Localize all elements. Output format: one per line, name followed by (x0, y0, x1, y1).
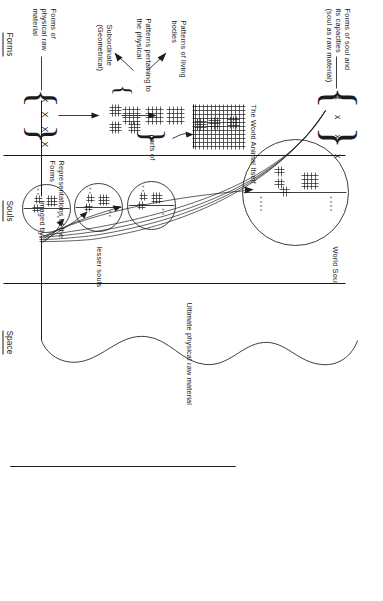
label-the-world-animal-itself: The World Animal Itself (248, 104, 257, 183)
grid-subordinate-b (108, 121, 121, 134)
grid-living-body-3 (165, 106, 184, 125)
world-soul-marks-top: x x x x (328, 196, 333, 211)
grid-lesser-soul-2c (83, 203, 92, 212)
grid-lesser-soul-2b (85, 194, 94, 203)
grid-living-body-2 (121, 106, 140, 125)
branch-head-living (157, 52, 166, 61)
label-subordinate-geometrical: Subordinate (Geometrical) (95, 24, 113, 71)
soul-raw-material-tokens: x x x x (332, 95, 341, 161)
label-patterns-of-living-bodies: Patterns of living bodies (169, 20, 187, 77)
label-representations-of-the-forms: Representations of the Forms (47, 160, 65, 238)
label-world-soul: World Soul (330, 246, 339, 284)
physical-raw-material-tokens: X X X X (39, 96, 48, 150)
section-heading-forms: Forms (2, 32, 13, 56)
grid-subordinate-a (108, 104, 121, 117)
grid-lesser-soul-1a (150, 192, 162, 204)
grid-world-soul-large (300, 172, 318, 190)
lesser-soul-2-marks-top: x x (107, 210, 112, 217)
grid-lesser-soul-2a (97, 194, 109, 206)
section-heading-souls: Souls (2, 200, 13, 221)
label-parts-of: parts of (147, 134, 156, 160)
label-imaged-by: imaged by (37, 200, 46, 235)
diagram-canvas: { } { } { } X X X X x x x x (0, 0, 383, 601)
lesser-soul-2-marks-bottom: x x (87, 187, 92, 194)
brace-subordinate: { (111, 84, 135, 96)
grid-world-soul-small-1 (273, 166, 284, 177)
arrow-head-1 (91, 112, 99, 118)
label-lesser-souls: lesser souls (94, 246, 103, 287)
label-patterns-pertaining-to-the-physical: Patterns pertaining to the physical (134, 18, 152, 92)
lesser-soul-1-marks-bottom: x x (140, 185, 145, 192)
label-forms-of-physical-raw-material: Forms of physical raw material (29, 8, 57, 50)
branch-head-subordinate (114, 52, 122, 61)
grid-living-body-1 (144, 106, 163, 125)
grid-world-animal (191, 104, 245, 150)
world-soul-marks-bottom: x x x x (258, 196, 263, 211)
space-wave (41, 336, 357, 364)
diagram-stage: { } { } { } X X X X x x x x (0, 0, 383, 601)
grid-world-soul-small-3 (278, 186, 289, 197)
soul-arrow-world-head (244, 186, 253, 193)
grid-lesser-soul-1c (136, 201, 145, 210)
label-forms-of-soul: Forms of soul and its capacities (soul a… (323, 8, 351, 82)
grid-lesser-soul-1b (138, 192, 147, 201)
label-ultimate-physical-raw-material: Ultimate physical raw material (184, 302, 193, 405)
section-heading-space: Space (2, 330, 13, 354)
lesser-soul-3-marks-bottom: x x (35, 188, 40, 195)
lesser-soul-1-marks-top: x x (160, 208, 165, 215)
